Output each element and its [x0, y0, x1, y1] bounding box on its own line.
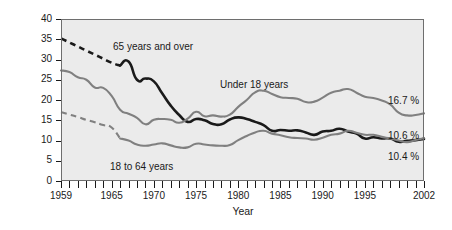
- y-tick-label: 15: [30, 114, 52, 125]
- y-tick-label: 40: [30, 13, 52, 24]
- y-tick-label: 5: [30, 154, 52, 165]
- x-tick-label: 1995: [345, 190, 385, 201]
- series-inline-label: 18 to 64 years: [110, 161, 173, 172]
- series-inline-label: 65 years and over: [113, 41, 193, 52]
- x-axis-tick-marks: [62, 181, 425, 188]
- y-tick-label: 35: [30, 33, 52, 44]
- x-tick-label: 1985: [260, 190, 300, 201]
- poverty-line-chart: Percent Living in Poverty 05101520253035…: [0, 0, 452, 230]
- series-end-value-label: 10.4 %: [388, 151, 419, 162]
- x-tick-label: 1980: [218, 190, 258, 201]
- y-tick-label: 20: [30, 94, 52, 105]
- series-end-value-label: 16.7 %: [388, 95, 419, 106]
- y-axis-tick-marks: [56, 20, 61, 182]
- x-tick-label: 1975: [176, 190, 216, 201]
- x-tick-label: 1965: [92, 190, 132, 201]
- y-tick-label: 30: [30, 53, 52, 64]
- series-end-value-label: 10.6 %: [388, 130, 419, 141]
- x-tick-label: 2002: [404, 190, 444, 201]
- y-tick-label: 25: [30, 73, 52, 84]
- x-tick-label: 1990: [303, 190, 343, 201]
- y-tick-label: 10: [30, 134, 52, 145]
- series-inline-label: Under 18 years: [220, 79, 288, 90]
- x-tick-label: 1959: [41, 190, 81, 201]
- y-tick-label: 0: [30, 175, 52, 186]
- x-axis-title: Year: [61, 205, 425, 217]
- x-tick-label: 1970: [134, 190, 174, 201]
